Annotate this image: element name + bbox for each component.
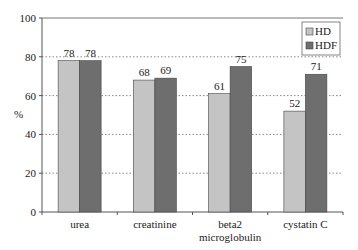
value-label: 52	[289, 97, 300, 109]
bar-hd-0	[58, 61, 80, 212]
value-label: 78	[85, 47, 97, 59]
legend-label-hd: HD	[315, 25, 331, 37]
legend-swatch-hd	[306, 28, 313, 35]
category-label: microglobulin	[199, 231, 262, 243]
legend-label-hdf: HDF	[315, 39, 337, 51]
bar-hd-3	[284, 111, 306, 212]
legend: HDHDF	[302, 22, 340, 55]
y-tick-label: 80	[25, 51, 37, 63]
value-label: 69	[160, 64, 172, 76]
bar-hd-2	[209, 94, 231, 212]
legend-swatch-hdf	[306, 42, 313, 49]
category-label: creatinine	[133, 218, 176, 230]
y-tick-label: 100	[20, 12, 37, 24]
value-label: 61	[214, 80, 225, 92]
y-tick-label: 20	[25, 167, 37, 179]
bar-hdf-3	[305, 74, 327, 212]
bar-hd-1	[133, 80, 155, 212]
y-axis-label: %	[14, 108, 23, 120]
bar-hdf-2	[230, 67, 252, 213]
y-tick-label: 60	[25, 90, 37, 102]
category-label: cystatin C	[283, 218, 327, 230]
y-tick-label: 40	[25, 128, 37, 140]
value-label: 71	[311, 60, 322, 72]
value-label: 68	[139, 66, 151, 78]
bar-hdf-0	[80, 61, 102, 212]
category-labels: ureacreatininebeta2microglobulincystatin…	[70, 218, 327, 243]
value-label: 75	[235, 53, 247, 65]
value-label: 78	[63, 47, 75, 59]
value-labels: 7878686961755271	[63, 47, 321, 109]
category-label: urea	[70, 218, 89, 230]
bar-hdf-1	[155, 78, 177, 212]
bar-chart: 020406080100 7878686961755271 ureacreati…	[0, 0, 358, 250]
y-tick-label: 0	[31, 206, 37, 218]
category-label: beta2	[218, 218, 242, 230]
bars	[58, 61, 327, 212]
